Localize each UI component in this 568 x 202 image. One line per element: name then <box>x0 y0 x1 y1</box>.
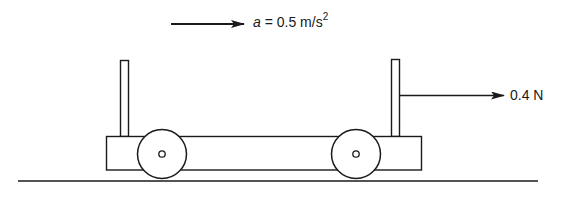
acceleration-label: a = 0.5 m/s2 <box>253 14 328 30</box>
acceleration-symbol: a <box>253 14 261 30</box>
cart-diagram <box>0 0 568 202</box>
acceleration-value: 0.5 m/s <box>277 14 323 30</box>
left-wheel <box>138 130 187 179</box>
right-wheel-hub <box>353 151 359 157</box>
right-post <box>392 60 400 137</box>
left-wheel-hub <box>159 151 165 157</box>
right-wheel <box>332 130 381 179</box>
force-label: 0.4 N <box>510 87 543 103</box>
left-post <box>121 61 129 137</box>
acceleration-exponent: 2 <box>323 11 329 22</box>
acceleration-equals: = <box>261 14 277 30</box>
